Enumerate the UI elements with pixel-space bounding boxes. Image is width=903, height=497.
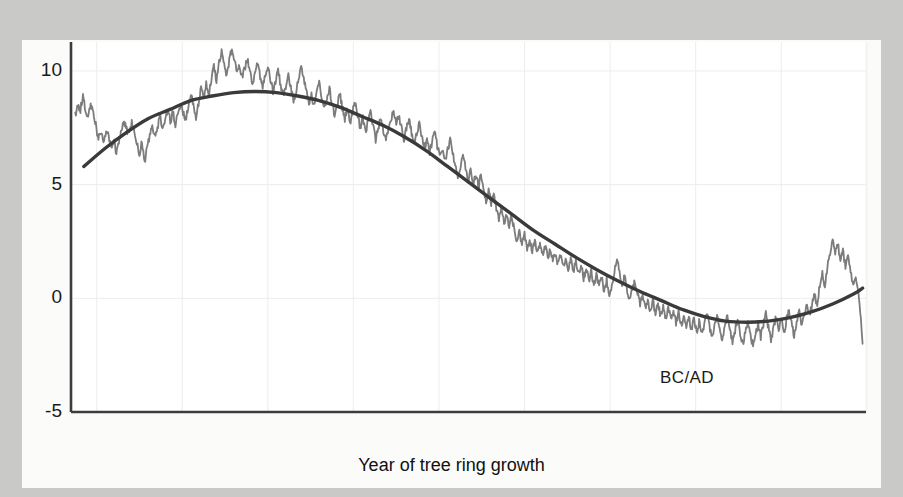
data-series-group xyxy=(75,49,862,346)
chart-svg xyxy=(0,0,903,497)
bc-ad-annotation: BC/AD xyxy=(660,368,714,388)
figure-container: 1050-5 Year of tree ring growth BC/AD xyxy=(0,0,903,497)
y-tick-label--5: -5 xyxy=(20,400,62,422)
y-tick-label-0: 0 xyxy=(20,286,62,308)
x-axis-label: Year of tree ring growth xyxy=(0,455,903,476)
measured-data-line xyxy=(75,49,862,346)
trend-line xyxy=(84,91,863,322)
y-tick-label-10: 10 xyxy=(20,59,62,81)
y-tick-label-5: 5 xyxy=(20,173,62,195)
